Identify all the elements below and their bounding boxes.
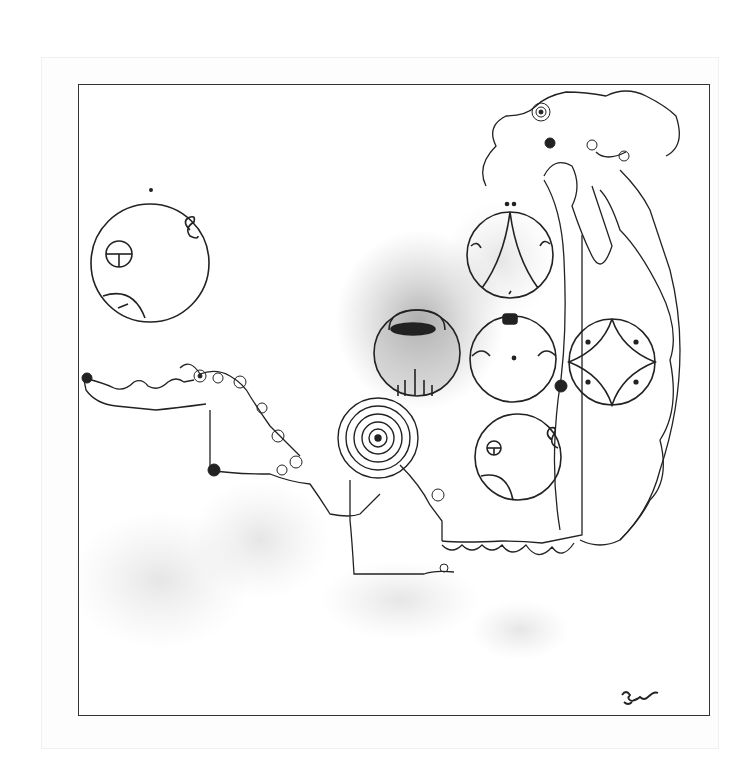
left-circle — [91, 189, 209, 322]
shaded-circle — [374, 310, 460, 396]
lower-circle — [475, 414, 561, 500]
signature — [622, 692, 658, 704]
drawing-canvas — [0, 0, 755, 781]
concentric-spiral — [338, 398, 418, 478]
background-smudges — [70, 200, 570, 660]
